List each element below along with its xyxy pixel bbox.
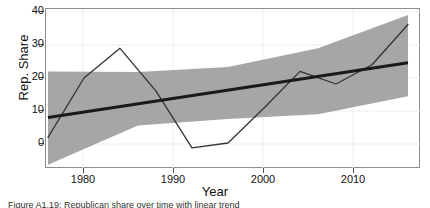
y-tick-label-0: 0 (8, 137, 44, 148)
figure-caption: Figure A1.19: Republican share over time… (8, 200, 428, 208)
y-axis-title: Rep. Share (16, 0, 31, 138)
x-axis-title: Year (0, 184, 430, 199)
plot-area (46, 9, 421, 169)
plot-panel (45, 8, 420, 168)
figure-container: 40 30 20 10 0 Rep. Share (0, 0, 430, 208)
